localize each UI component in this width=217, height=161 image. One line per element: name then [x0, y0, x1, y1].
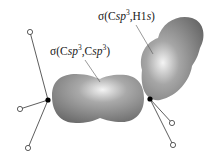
c-h-sigma-orbital [141, 17, 204, 100]
right-lower-hydrogen-atom [170, 142, 175, 147]
cc-label-sp1: sp [68, 45, 78, 57]
ch-label-sigma: σ( [98, 10, 108, 22]
c-c-sigma-orbital [52, 74, 144, 123]
left-top-hydrogen-atom [27, 29, 32, 34]
left-carbon-atom [45, 97, 50, 102]
cc-label-close: ) [106, 45, 110, 57]
diagram-canvas [0, 0, 217, 161]
ch-label-close: ) [151, 10, 155, 22]
ch-label-sep: ,H1 [130, 10, 147, 22]
cc-sigma-label: σ(Csp3,Csp3) [50, 46, 110, 58]
ch-label-c1: C [108, 10, 116, 22]
right-upper-hydrogen-atom [169, 120, 174, 125]
bond-left-bottom [28, 100, 48, 148]
ch-label-sp1: sp [116, 10, 126, 22]
bond-right-upper [150, 99, 172, 123]
cc-label-c1: C [60, 45, 68, 57]
cc-label-sp2: sp [92, 45, 102, 57]
ch-sigma-label: σ(Csp3,H1s) [98, 11, 155, 23]
left-middle-hydrogen-atom [17, 106, 22, 111]
bond-left-top [30, 32, 48, 100]
bond-left-middle [20, 100, 48, 109]
cc-label-sigma: σ( [50, 45, 60, 57]
orbital-diagram: σ(Csp3,Csp3) σ(Csp3,H1s) [0, 0, 217, 161]
left-bottom-hydrogen-atom [25, 145, 30, 150]
right-carbon-atom [147, 96, 152, 101]
